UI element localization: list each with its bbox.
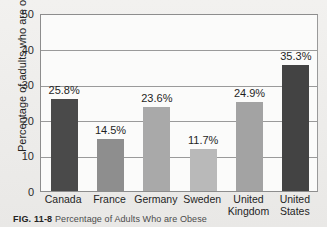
- bar-value-label: 11.7%: [188, 134, 218, 146]
- bar-value-label: 25.8%: [49, 84, 80, 96]
- bar: 14.5%: [97, 139, 124, 191]
- gridline: [41, 157, 317, 158]
- bar: 25.8%: [51, 99, 78, 191]
- figure-container: Percentage of adults who are obese 01020…: [0, 0, 327, 227]
- bar-value-label: 23.6%: [141, 92, 172, 104]
- y-axis-tick-label: 10: [8, 151, 34, 162]
- gridline: [41, 86, 317, 87]
- bar: 11.7%: [190, 149, 217, 191]
- y-axis-tick-label: 20: [8, 116, 34, 127]
- bar-value-label: 35.3%: [280, 50, 311, 62]
- gridline: [41, 121, 317, 122]
- figure-caption: FIG. 11-8 Percentage of Adults Who are O…: [13, 214, 207, 224]
- bar: 23.6%: [143, 107, 170, 191]
- gridline: [41, 50, 317, 51]
- category-label-line: States: [245, 206, 327, 217]
- x-axis-category-label: UnitedStates: [245, 194, 327, 216]
- category-label-line: United: [245, 194, 327, 205]
- plot-area: 25.8%14.5%23.6%11.7%24.9%35.3%: [40, 14, 318, 192]
- bar-value-label: 24.9%: [234, 87, 265, 99]
- y-axis-tick-label: 30: [8, 80, 34, 91]
- bar-value-label: 14.5%: [95, 124, 126, 136]
- bar: 24.9%: [236, 102, 263, 191]
- bar: 35.3%: [282, 65, 309, 191]
- figure-caption-text: Percentage of Adults Who are Obese: [55, 214, 207, 224]
- figure-caption-number: FIG. 11-8: [13, 214, 52, 224]
- y-axis-tick-label: 50: [8, 9, 34, 20]
- y-axis-tick-label: 40: [8, 45, 34, 56]
